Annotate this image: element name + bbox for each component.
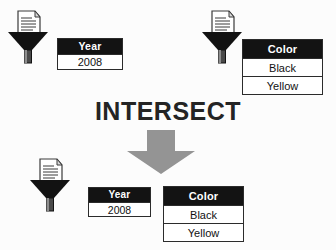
table-data-cell: Yellow <box>243 76 322 94</box>
table-data-cell: Yellow <box>164 223 243 241</box>
table-header-cell: Year <box>89 188 150 202</box>
table-header-cell: Year <box>58 39 122 54</box>
filter-funnel-icon <box>28 157 72 215</box>
table-output-year: Year 2008 <box>88 187 151 217</box>
table-data-cell: 2008 <box>89 202 150 216</box>
diagram-canvas: Year 2008 Color Black Yellow <box>0 0 336 250</box>
table-input-color: Color Black Yellow <box>242 39 323 95</box>
filter-funnel-icon <box>6 9 50 67</box>
table-data-cell: Black <box>243 58 322 76</box>
table-output-color: Color Black Yellow <box>163 186 244 242</box>
operation-label: INTERSECT <box>0 97 336 126</box>
table-header-cell: Color <box>243 40 322 58</box>
table-data-cell: Black <box>164 205 243 223</box>
filter-funnel-icon <box>200 9 244 67</box>
table-input-year: Year 2008 <box>57 38 123 70</box>
table-header-cell: Color <box>164 187 243 205</box>
down-arrow-icon <box>125 128 197 176</box>
table-data-cell: 2008 <box>58 54 122 69</box>
